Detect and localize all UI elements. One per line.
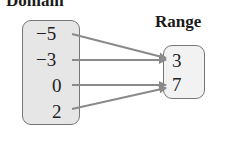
arrow-icon <box>72 88 166 109</box>
mapping-arrows <box>0 0 227 154</box>
arrow-icon <box>72 34 166 58</box>
